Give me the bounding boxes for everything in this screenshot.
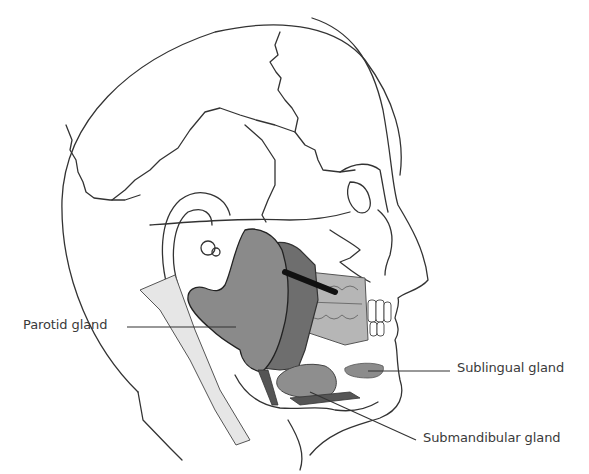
neck-back bbox=[138, 392, 182, 460]
ear-outer bbox=[162, 193, 230, 290]
orbit bbox=[348, 182, 371, 213]
ear-canal bbox=[201, 241, 215, 255]
front-teeth bbox=[368, 300, 391, 336]
nasal-bone bbox=[378, 210, 392, 275]
label-sublingual-gland: Sublingual gland bbox=[457, 360, 564, 375]
label-parotid-gland: Parotid gland bbox=[23, 317, 107, 332]
label-submandibular-gland: Submandibular gland bbox=[423, 430, 560, 445]
coronal-suture bbox=[270, 32, 298, 132]
hyoid-curve bbox=[288, 420, 302, 470]
stylohyoid-muscle bbox=[258, 370, 278, 405]
head-illustration bbox=[0, 0, 589, 474]
sphenoid-suture bbox=[245, 125, 275, 222]
cheekbone bbox=[330, 230, 370, 282]
salivary-gland-diagram: Parotid gland Sublingual gland Submandib… bbox=[0, 0, 589, 474]
lambdoid-suture bbox=[66, 125, 140, 200]
squamosal-suture bbox=[112, 108, 355, 200]
